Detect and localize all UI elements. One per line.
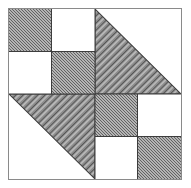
figure-canvas: Quilt Block Pattern — [0, 0, 191, 188]
br-cell-top-left — [95, 94, 138, 137]
quadrant-grid — [9, 9, 181, 179]
tl-cell-bottom-right — [52, 52, 95, 95]
tl-cell-top-left — [9, 9, 52, 52]
bottom-left-shaded-triangle — [9, 94, 95, 179]
br-cell-bottom-left — [95, 137, 138, 180]
tl-cell-bottom-left — [9, 52, 52, 95]
top-left-quadrant — [9, 9, 95, 94]
horizontal-center-divider — [9, 94, 181, 95]
top-right-shaded-triangle — [95, 9, 181, 94]
tl-cell-top-right — [52, 9, 95, 52]
bottom-right-quadrant — [95, 94, 181, 179]
bottom-left-triangle-surface — [9, 94, 95, 179]
bottom-left-quadrant — [9, 94, 95, 179]
br-cell-top-right — [138, 94, 181, 137]
br-cell-bottom-right — [138, 137, 181, 180]
top-right-triangle-surface — [95, 9, 181, 94]
quilt-block — [8, 8, 182, 180]
top-right-quadrant — [95, 9, 181, 94]
